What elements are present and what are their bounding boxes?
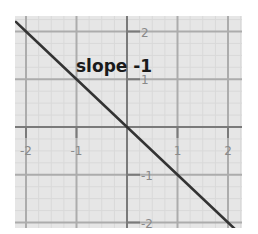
slope-chart: -2-11221-1-2 slope -1 xyxy=(0,0,258,234)
x-tick-label: 1 xyxy=(174,144,182,158)
x-tick-label: -2 xyxy=(20,144,32,158)
slope-annotation: slope -1 xyxy=(76,56,152,76)
plot-background xyxy=(15,16,242,228)
y-tick-label: -2 xyxy=(141,217,153,231)
x-tick-label: -1 xyxy=(71,144,83,158)
y-tick-label: 2 xyxy=(141,26,149,40)
y-tick-label: -1 xyxy=(141,169,153,183)
x-tick-label: 2 xyxy=(224,144,232,158)
